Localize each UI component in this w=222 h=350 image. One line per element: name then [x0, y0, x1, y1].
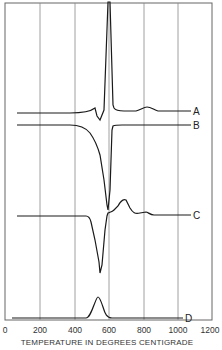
gridlines — [40, 3, 178, 320]
curve-d — [12, 297, 180, 318]
x-tick-800: 800 — [137, 325, 151, 335]
x-tick-1000: 1000 — [169, 325, 188, 335]
x-axis-ticks: 0 200 400 600 800 1000 1200 — [3, 325, 220, 335]
curve-label-a: A — [193, 106, 200, 117]
curve-b — [17, 125, 185, 210]
x-tick-600: 600 — [102, 325, 116, 335]
dta-chart: A B C D 0 200 400 600 800 1000 1200 TEMP… — [0, 0, 222, 350]
curve-label-d: D — [185, 313, 192, 324]
x-tick-200: 200 — [33, 325, 47, 335]
curve-label-b: B — [193, 120, 200, 131]
x-tick-1200: 1200 — [201, 325, 220, 335]
x-tick-400: 400 — [68, 325, 82, 335]
curve-c — [17, 200, 185, 273]
x-tick-0: 0 — [3, 325, 8, 335]
plot-frame — [5, 3, 212, 320]
x-axis-title: TEMPERATURE IN DEGREES CENTIGRADE — [21, 338, 194, 347]
curve-a — [17, 2, 185, 120]
curve-label-c: C — [193, 210, 200, 221]
